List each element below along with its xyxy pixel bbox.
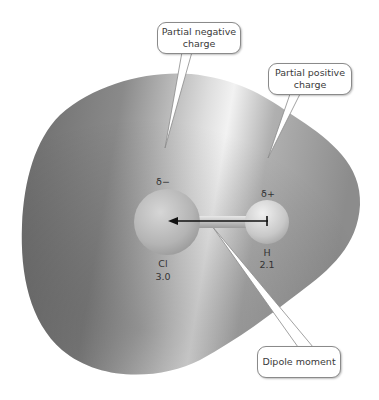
partial-positive-callout: Partial positive charge: [268, 63, 352, 95]
chlorine-electronegativity: 3.0: [155, 271, 170, 282]
partial-negative-symbol: δ−: [156, 176, 170, 187]
dipole-moment-callout: Dipole moment: [257, 346, 341, 378]
dipole-moment-label: Dipole moment: [262, 356, 335, 368]
hydrogen-symbol: H: [263, 247, 270, 258]
partial-negative-callout: Partial negative charge: [157, 22, 241, 54]
partial-positive-line1: Partial positive: [275, 67, 345, 79]
partial-positive-symbol: δ+: [261, 188, 275, 199]
chlorine-symbol: Cl: [158, 258, 167, 269]
hcl-dipole-diagram: [0, 0, 379, 400]
partial-positive-line2: charge: [294, 79, 327, 91]
hydrogen-electronegativity: 2.1: [259, 259, 274, 270]
chlorine-atom: [134, 189, 200, 255]
partial-negative-line1: Partial negative: [162, 26, 236, 38]
partial-negative-line2: charge: [183, 38, 216, 50]
